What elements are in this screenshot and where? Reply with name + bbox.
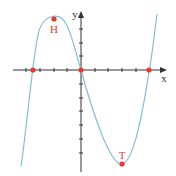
root-point-origin [78,67,83,72]
minimum-point-t [119,161,124,166]
y-axis-label: y [72,8,78,20]
label-h: H [50,23,58,35]
maximum-point-h [51,16,56,21]
root-point-left [30,67,35,72]
y-axis-arrow-icon [78,11,84,18]
root-point-right [146,67,151,72]
x-axis-label: x [161,72,167,84]
function-graph: H T y x [0,0,176,176]
label-t: T [119,149,126,161]
cubic-curve [21,14,157,166]
